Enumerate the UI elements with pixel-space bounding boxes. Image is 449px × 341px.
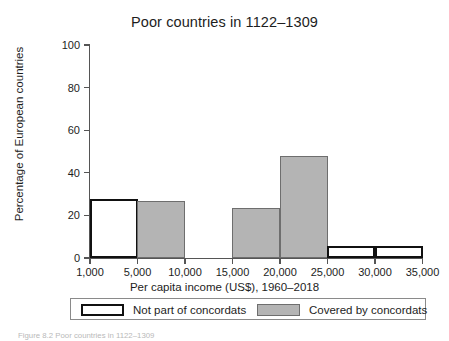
y-tick-label-wrap: 60 xyxy=(32,124,80,136)
bar[interactable] xyxy=(90,199,138,258)
y-tick-label: 0 xyxy=(36,252,80,264)
chart-legend: Not part of concordats Covered by concor… xyxy=(70,298,426,320)
legend-label-covered-by-concordats: Covered by concordats xyxy=(309,304,427,316)
y-tick-label-wrap: 40 xyxy=(32,167,80,179)
y-tick-mark xyxy=(84,172,89,173)
x-tick-mark xyxy=(89,259,90,264)
bar[interactable] xyxy=(327,246,375,258)
y-tick-mark xyxy=(84,130,89,131)
legend-label-not-part-of-concordats: Not part of concordats xyxy=(133,304,246,316)
y-tick-label: 20 xyxy=(36,209,80,221)
x-axis-label: Per capita income (US$), 1960–2018 xyxy=(0,281,449,293)
legend-item-not-part-of-concordats[interactable]: Not part of concordats xyxy=(81,299,246,321)
x-tick-mark xyxy=(279,259,280,264)
y-tick-label: 80 xyxy=(36,82,80,94)
x-tick-mark xyxy=(327,259,328,264)
y-axis-label: Percentage of European countries xyxy=(13,19,25,249)
x-tick-mark xyxy=(184,259,185,264)
y-tick-label-wrap: 20 xyxy=(32,209,80,221)
x-tick-mark xyxy=(422,259,423,264)
legend-swatch-filled xyxy=(257,304,300,316)
legend-item-covered-by-concordats[interactable]: Covered by concordats xyxy=(257,299,427,321)
x-tick-mark xyxy=(374,259,375,264)
figure-caption: Figure 8.2 Poor countries in 1122–1309 xyxy=(18,331,438,340)
legend-swatch-open xyxy=(81,304,124,316)
x-tick-mark xyxy=(232,259,233,264)
x-tick-mark xyxy=(137,259,138,264)
y-tick-label-wrap: 100 xyxy=(32,39,80,51)
x-tick-label: 35,000 xyxy=(393,266,449,278)
y-tick-label: 60 xyxy=(36,124,80,136)
bar[interactable] xyxy=(137,201,185,258)
y-tick-label-wrap: 80 xyxy=(32,82,80,94)
y-tick-mark xyxy=(84,44,89,45)
y-tick-mark xyxy=(84,257,89,258)
y-tick-mark xyxy=(84,215,89,216)
chart-title: Poor countries in 1122–1309 xyxy=(0,14,449,30)
bar[interactable] xyxy=(232,208,280,258)
y-tick-label-wrap: 0 xyxy=(32,252,80,264)
figure-container: Poor countries in 1122–1309 020406080100… xyxy=(0,0,449,341)
bar[interactable] xyxy=(280,156,328,258)
y-tick-label: 100 xyxy=(36,39,80,51)
bar[interactable] xyxy=(375,246,423,258)
y-tick-label: 40 xyxy=(36,167,80,179)
y-tick-mark xyxy=(84,87,89,88)
x-axis-line xyxy=(89,258,423,259)
